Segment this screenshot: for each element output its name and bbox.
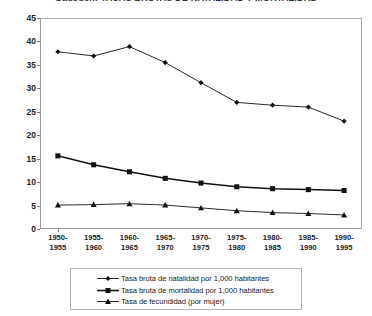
data-point-marker: [55, 153, 60, 158]
data-point-marker: [306, 187, 311, 192]
legend-marker-icon: [95, 285, 121, 296]
y-axis-tick-label: 40: [14, 36, 36, 46]
data-point-marker: [163, 60, 168, 65]
legend-item: Tasa bruta de natalidad por 1,000 habita…: [71, 273, 301, 285]
data-point-marker: [91, 162, 96, 167]
data-point-marker: [234, 100, 239, 105]
y-axis-tick-label: 5: [14, 201, 36, 211]
legend-item-label: Tasa de fecundidad (por mujer): [121, 297, 225, 306]
legend-item-label: Tasa bruta de mortalidad por 1,000 habit…: [121, 286, 274, 295]
y-axis-tick-label: 30: [14, 83, 36, 93]
data-point-marker: [198, 80, 203, 85]
data-point-marker: [306, 104, 311, 109]
data-point-marker: [342, 119, 347, 124]
page-title: Gadsden: TASAS BRUTAS DE NATALIDAD Y MOR…: [0, 0, 372, 3]
y-axis-tick-label: 10: [14, 177, 36, 187]
data-point-marker: [105, 288, 110, 293]
chart-series: [55, 201, 347, 218]
legend-marker-icon: [95, 273, 121, 284]
data-point-marker: [270, 103, 275, 108]
legend-item: Tasa de fecundidad (por mujer): [71, 296, 301, 308]
x-axis-tick-mark: [58, 229, 59, 232]
data-point-marker: [127, 44, 132, 49]
legend-marker-icon: [95, 296, 121, 307]
chart-series: [55, 153, 346, 193]
legend-item: Tasa bruta de mortalidad por 1,000 habit…: [71, 285, 301, 297]
chart-legend: Tasa bruta de natalidad por 1,000 habita…: [70, 268, 302, 310]
data-point-marker: [270, 186, 275, 191]
data-point-marker: [234, 184, 239, 189]
y-axis-tick-label: 15: [14, 154, 36, 164]
y-axis-tick-mark: [37, 229, 40, 230]
y-axis-tick-label: 20: [14, 130, 36, 140]
data-point-marker: [91, 53, 96, 58]
y-axis-tick-label: 35: [14, 60, 36, 70]
x-axis-tick-label-line: 1995: [321, 243, 367, 253]
data-point-marker: [55, 49, 60, 54]
data-point-marker: [198, 181, 203, 186]
data-point-marker: [105, 276, 110, 281]
x-axis-tick-label-line: 1990-: [321, 233, 367, 243]
data-point-marker: [342, 188, 347, 193]
data-point-marker: [163, 176, 168, 181]
chart-plot: [40, 18, 362, 229]
chart-series: [55, 44, 346, 124]
y-axis-tick-label: 25: [14, 107, 36, 117]
x-axis-tick-label: 1990-1995: [321, 233, 367, 252]
y-axis-tick-label: 45: [14, 13, 36, 23]
y-axis-tick-label: 0: [14, 224, 36, 234]
data-point-marker: [127, 169, 132, 174]
legend-item-label: Tasa bruta de natalidad por 1,000 habita…: [121, 274, 269, 283]
